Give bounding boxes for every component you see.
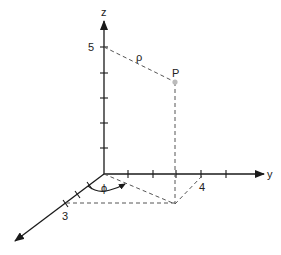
rho-label: ρ bbox=[136, 51, 142, 63]
y-axis-label: y bbox=[267, 168, 273, 180]
phi-label: ϕ bbox=[101, 182, 107, 194]
y-axis bbox=[104, 170, 264, 178]
z-tick-label-5: 5 bbox=[88, 41, 94, 53]
x-tick-label-3: 3 bbox=[62, 210, 68, 222]
y-parallel-line bbox=[175, 176, 202, 204]
z-axis bbox=[100, 21, 108, 174]
point-p-label: P bbox=[172, 67, 179, 79]
y-tick-label-4: 4 bbox=[199, 181, 205, 193]
point-p bbox=[172, 79, 177, 84]
z-axis-label: z bbox=[101, 6, 107, 18]
x-axis bbox=[15, 174, 104, 241]
construction-lines bbox=[66, 47, 202, 204]
cylindrical-coordinates-diagram: z 5 y 4 3 P ρ ϕ bbox=[0, 0, 281, 255]
